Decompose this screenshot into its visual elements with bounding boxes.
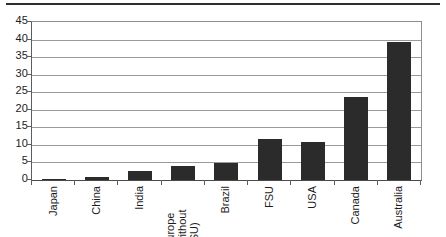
y-axis-tick-label: 5 — [2, 155, 28, 166]
x-axis-tick-mark — [420, 180, 421, 185]
bar-slot — [32, 22, 75, 180]
y-axis-tick-label: 25 — [2, 85, 28, 96]
bar-slot — [378, 22, 421, 180]
x-axis-tick-mark — [247, 180, 248, 185]
x-axis-label-slot: Canada — [334, 186, 377, 237]
y-axis-tick-label: 35 — [2, 50, 28, 61]
y-axis-tick-label: 10 — [2, 138, 28, 149]
bar-slot — [162, 22, 205, 180]
x-axis-label-slot: Japan — [31, 186, 74, 237]
x-axis-label-slot: Europe (without FSU) — [161, 186, 204, 237]
x-axis-category-label: Australia — [392, 186, 404, 229]
x-axis-category-labels: JapanChinaIndiaEurope (without FSU)Brazi… — [31, 186, 420, 237]
x-axis-category-label: Europe (without FSU) — [164, 186, 200, 237]
x-axis-category-label: FSU — [263, 186, 275, 208]
y-axis-tick-label: 20 — [2, 103, 28, 114]
bar-slot — [248, 22, 291, 180]
y-axis-tick-label: 0 — [2, 173, 28, 184]
x-axis-tick-mark — [334, 180, 335, 185]
bar-slot — [75, 22, 118, 180]
y-axis: 051015202530354045 — [0, 0, 28, 237]
x-axis-label-slot: FSU — [247, 186, 290, 237]
x-axis-category-label: Canada — [349, 186, 361, 225]
y-axis-tick-label: 40 — [2, 33, 28, 44]
bar — [301, 142, 325, 180]
x-axis-label-slot: China — [74, 186, 117, 237]
x-axis-label-slot: Australia — [377, 186, 420, 237]
bar-slot — [335, 22, 378, 180]
bar-series — [32, 22, 421, 180]
x-axis-category-label: India — [133, 186, 145, 210]
x-axis-category-label: China — [90, 186, 102, 215]
x-axis-category-label: USA — [306, 186, 318, 209]
bar-chart-figure: 051015202530354045 JapanChinaIndiaEurope… — [0, 0, 446, 237]
x-axis-tick-mark — [74, 180, 75, 185]
bar-slot — [205, 22, 248, 180]
bar — [344, 97, 368, 180]
bar — [171, 166, 195, 180]
y-axis-tick-label: 15 — [2, 120, 28, 131]
x-axis-label-slot: Brazil — [204, 186, 247, 237]
y-axis-tick-label: 30 — [2, 68, 28, 79]
chart-plot-wrapper: 051015202530354045 JapanChinaIndiaEurope… — [0, 0, 446, 237]
x-axis-category-label: Brazil — [219, 186, 231, 214]
bar — [128, 171, 152, 180]
x-axis-tick-mark — [377, 180, 378, 185]
bar-slot — [291, 22, 334, 180]
x-axis-tick-mark — [117, 180, 118, 185]
x-axis-label-slot: USA — [290, 186, 333, 237]
plot-area — [31, 21, 422, 181]
x-axis-category-label: Japan — [47, 186, 59, 216]
y-axis-tick-label: 45 — [2, 15, 28, 26]
x-axis-tick-mark — [161, 180, 162, 185]
x-axis-tick-mark — [204, 180, 205, 185]
x-axis-ticks — [31, 180, 421, 185]
x-axis-label-slot: India — [117, 186, 160, 237]
bar — [258, 139, 282, 180]
x-axis-tick-mark — [290, 180, 291, 185]
bar — [214, 163, 238, 180]
bar — [387, 42, 411, 180]
bar-slot — [118, 22, 161, 180]
x-axis-tick-mark — [31, 180, 32, 185]
